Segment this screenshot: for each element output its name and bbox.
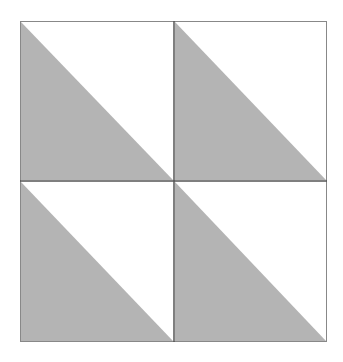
triangle-top-right [175,22,326,180]
triangle-bottom-right [175,182,326,341]
quilt-diagram [0,0,343,362]
triangle-top-left [21,22,173,180]
triangle-bottom-left [21,182,173,341]
